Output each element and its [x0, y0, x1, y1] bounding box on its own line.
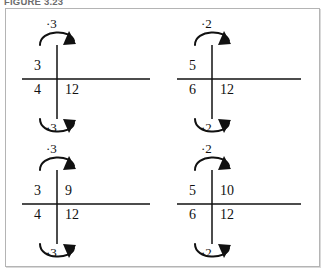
numerator-right-value: 9 [65, 184, 72, 198]
denominator-right-value: 12 [220, 208, 234, 222]
cross-strokes-top-right [169, 15, 319, 137]
denominator-right-value: 12 [220, 83, 234, 97]
denominator-left-value: 4 [34, 208, 41, 222]
denominator-right-value: 12 [65, 83, 79, 97]
figure-border-box: ·3 3 4 12 ·3 ·2 5 6 12 ·2 [5, 8, 320, 267]
top-multiplier-label: ·2 [201, 17, 212, 30]
numerator-right-value: 10 [220, 184, 234, 198]
cross-strokes-top-left [14, 15, 164, 137]
denominator-left-value: 6 [189, 208, 196, 222]
numerator-left-value: 5 [189, 59, 196, 73]
top-multiplier-label: ·3 [46, 142, 57, 155]
bottom-multiplier-label: ·2 [201, 121, 212, 134]
ratio-cross-top-left: ·3 3 4 12 ·3 [14, 15, 164, 137]
ratio-cross-bottom-right: ·2 5 10 6 12 ·2 [169, 140, 319, 262]
cross-strokes-bottom-left [14, 140, 164, 262]
bottom-multiplier-label: ·3 [46, 121, 57, 134]
bottom-multiplier-label: ·3 [46, 246, 57, 259]
denominator-left-value: 6 [189, 83, 196, 97]
ratio-cross-top-right: ·2 5 6 12 ·2 [169, 15, 319, 137]
top-multiplier-label: ·3 [46, 17, 57, 30]
denominator-right-value: 12 [65, 208, 79, 222]
numerator-left-value: 3 [34, 184, 41, 198]
cross-strokes-bottom-right [169, 140, 319, 262]
top-multiplier-label: ·2 [201, 142, 212, 155]
bottom-multiplier-label: ·2 [201, 246, 212, 259]
ratio-cross-bottom-left: ·3 3 9 4 12 ·3 [14, 140, 164, 262]
figure-caption: FIGURE 3.23 [4, 0, 63, 7]
numerator-left-value: 3 [34, 59, 41, 73]
denominator-left-value: 4 [34, 83, 41, 97]
figure-page: FIGURE 3.23 ·3 3 4 12 ·3 [0, 0, 327, 277]
numerator-left-value: 5 [189, 184, 196, 198]
